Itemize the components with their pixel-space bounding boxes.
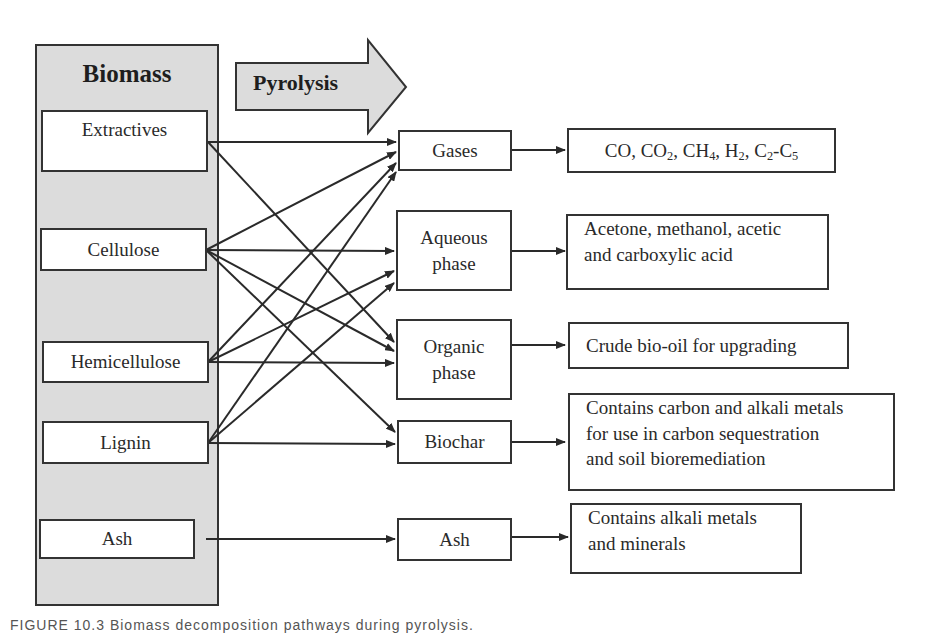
description-line2: and carboxylic acid xyxy=(584,242,733,268)
source-box-lignin: Lignin xyxy=(42,421,209,464)
description-line2: and minerals xyxy=(588,531,686,557)
product-box-organic-phase: Organic phase xyxy=(396,319,512,400)
source-label: Cellulose xyxy=(88,237,160,263)
description-line1: Crude bio-oil for upgrading xyxy=(586,333,797,359)
source-label: Hemicellulose xyxy=(71,349,181,375)
description-line1: Contains alkali metals xyxy=(588,505,757,531)
gas-composition: CO, CO2, CH4, H2, C2-C5 xyxy=(605,138,798,164)
description-line3: and soil bioremediation xyxy=(586,446,765,472)
description-line1: Acetone, methanol, acetic xyxy=(584,216,781,242)
product-label-line1: Organic xyxy=(424,334,485,360)
product-label-line1: Aqueous xyxy=(420,225,488,251)
source-box-extractives: Extractives xyxy=(41,110,208,172)
source-box-hemicellulose: Hemicellulose xyxy=(42,341,209,383)
description-line1: Contains carbon and alkali metals xyxy=(586,395,843,421)
product-label: Ash xyxy=(439,527,470,553)
product-box-biochar: Biochar xyxy=(397,420,512,464)
description-box-biochar: Contains carbon and alkali metals for us… xyxy=(568,393,895,491)
description-line2: for use in carbon sequestration xyxy=(586,421,819,447)
description-box-ash: Contains alkali metals and minerals xyxy=(570,503,802,574)
figure-caption: FIGURE 10.3 Biomass decomposition pathwa… xyxy=(10,617,474,633)
source-label: Extractives xyxy=(82,117,167,143)
product-label: Biochar xyxy=(424,429,484,455)
description-box-organic: Crude bio-oil for upgrading xyxy=(568,322,849,369)
source-label: Ash xyxy=(102,526,133,552)
source-label: Lignin xyxy=(100,430,151,456)
product-label-line2: phase xyxy=(432,360,475,386)
product-box-ash: Ash xyxy=(397,518,512,561)
pyrolysis-label: Pyrolysis xyxy=(253,70,338,96)
product-label-line2: phase xyxy=(432,251,475,277)
source-box-ash: Ash xyxy=(39,519,195,559)
source-box-cellulose: Cellulose xyxy=(40,228,207,271)
product-label: Gases xyxy=(432,138,477,164)
description-box-aqueous: Acetone, methanol, acetic and carboxylic… xyxy=(566,214,829,290)
product-box-aqueous-phase: Aqueous phase xyxy=(396,210,512,291)
description-box-gases: CO, CO2, CH4, H2, C2-C5 xyxy=(567,128,836,173)
product-box-gases: Gases xyxy=(398,130,512,171)
